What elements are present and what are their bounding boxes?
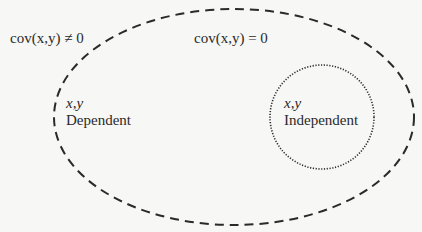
cov-zero-label: cov(x,y) = 0 [194, 30, 268, 47]
dependent-label: Dependent [66, 112, 131, 129]
independent-label: Independent [284, 112, 358, 129]
cov-zero-text: cov(x,y) = 0 [194, 30, 268, 46]
covariance-diagram: cov(x,y) ≠ 0 cov(x,y) = 0 x,y Dependent … [0, 0, 422, 232]
independent-vars-label: x,y [284, 95, 301, 112]
cov-nonzero-label: cov(x,y) ≠ 0 [10, 30, 84, 47]
dependent-vars-label: x,y [66, 95, 83, 112]
cov-nonzero-text: cov(x,y) ≠ 0 [10, 30, 84, 46]
